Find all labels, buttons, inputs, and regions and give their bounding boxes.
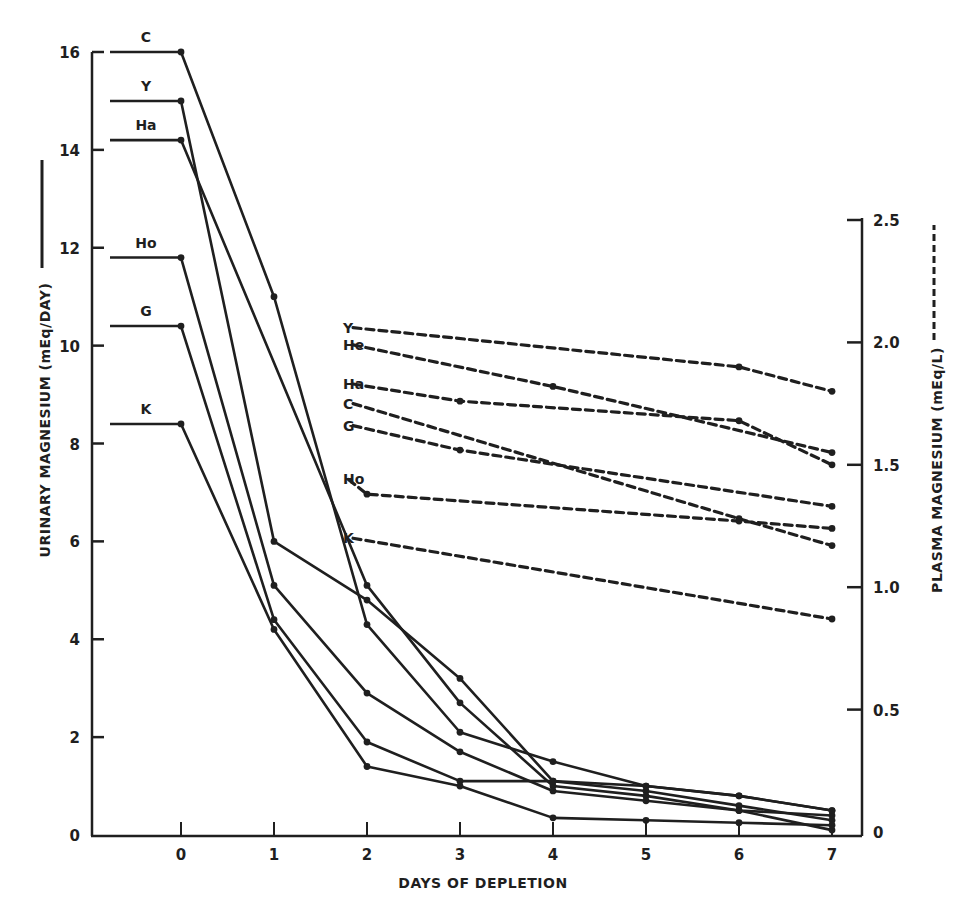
plasma-label-g: G <box>343 418 355 434</box>
urinary-line-g <box>110 326 832 810</box>
data-point <box>457 699 464 706</box>
plasma-label-c: C <box>343 396 353 412</box>
right-y-tick-label: 0.5 <box>873 702 900 720</box>
left-y-tick-label: 2 <box>70 729 80 747</box>
left-y-tick-label: 16 <box>59 44 80 62</box>
data-point <box>829 542 836 549</box>
urinary-line-c <box>110 52 832 811</box>
data-point <box>271 626 278 633</box>
data-point <box>457 447 464 454</box>
data-point <box>364 739 371 746</box>
right-y-tick-label: 0 <box>873 824 883 842</box>
left-y-tick-label: 6 <box>70 533 80 551</box>
data-point <box>271 293 278 300</box>
plasma-magnesium-series <box>348 328 835 623</box>
plasma-line-he <box>353 345 832 453</box>
data-point <box>829 449 836 456</box>
plasma-line-g <box>353 426 832 507</box>
x-tick-label: 0 <box>176 846 186 864</box>
data-point <box>457 729 464 736</box>
x-tick-label: 2 <box>362 846 372 864</box>
data-point <box>178 137 185 144</box>
urinary-label-g: G <box>140 303 152 319</box>
plasma-label-ha: Ha <box>343 376 364 392</box>
x-tick-label: 5 <box>641 846 651 864</box>
data-point <box>550 814 557 821</box>
data-point <box>271 538 278 545</box>
data-point <box>178 254 185 261</box>
data-point <box>736 518 743 525</box>
data-point <box>271 582 278 589</box>
data-point <box>457 783 464 790</box>
data-point <box>364 621 371 628</box>
plasma-label-he: He <box>343 337 364 353</box>
plasma-line-ho <box>348 479 832 528</box>
data-point <box>550 758 557 765</box>
data-point <box>736 417 743 424</box>
data-point <box>178 421 185 428</box>
urinary-label-c: C <box>141 29 151 45</box>
data-point <box>829 807 836 814</box>
data-point <box>643 817 650 824</box>
data-point <box>457 398 464 405</box>
right-y-tick-label: 1.5 <box>873 457 900 475</box>
right-y-tick-label: 2.5 <box>873 212 900 230</box>
urinary-label-k: K <box>141 401 153 417</box>
data-point <box>178 49 185 56</box>
left-y-tick-label: 8 <box>70 436 80 454</box>
x-tick-label: 1 <box>269 846 279 864</box>
data-point <box>736 819 743 826</box>
x-tick-label: 3 <box>455 846 465 864</box>
data-point <box>829 525 836 532</box>
data-point <box>829 616 836 623</box>
data-point <box>364 582 371 589</box>
data-point <box>829 822 836 829</box>
x-tick-label: 7 <box>827 846 837 864</box>
x-tick-label: 4 <box>548 846 558 864</box>
plasma-label-y: Y <box>342 320 354 336</box>
plasma-label-k: K <box>343 530 355 546</box>
data-point <box>178 98 185 105</box>
urinary-label-y: Y <box>140 78 152 94</box>
left-y-tick-label: 12 <box>59 240 80 258</box>
data-point <box>364 597 371 604</box>
data-point <box>550 778 557 785</box>
data-point <box>829 388 836 395</box>
left-y-axis-title: URINARY MAGNESIUM (mEq/DAY) <box>37 283 53 558</box>
plasma-line-k <box>353 538 832 619</box>
right-y-axis-title: PLASMA MAGNESIUM (mEq/L) <box>929 347 945 593</box>
x-axis-title: DAYS OF DEPLETION <box>398 875 567 891</box>
right-y-tick-label: 1.0 <box>873 579 900 597</box>
x-tick-label: 6 <box>734 846 744 864</box>
data-point <box>457 675 464 682</box>
data-point <box>643 783 650 790</box>
data-point <box>550 383 557 390</box>
data-point <box>364 763 371 770</box>
left-y-tick-label: 4 <box>70 631 80 649</box>
plasma-label-ho: Ho <box>343 471 365 487</box>
data-point <box>829 503 836 510</box>
data-point <box>736 363 743 370</box>
left-y-tick-label: 10 <box>59 338 80 356</box>
data-point <box>736 792 743 799</box>
data-point <box>364 491 371 498</box>
left-y-tick-label: 14 <box>59 142 80 160</box>
left-y-tick-label: 0 <box>70 827 80 845</box>
plasma-line-ha <box>353 384 832 465</box>
data-point <box>178 323 185 330</box>
urinary-line-ha <box>110 140 832 830</box>
data-point <box>364 690 371 697</box>
series-labels: CYHaHoGKYHeHaCGHoK <box>135 29 364 546</box>
data-point <box>457 748 464 755</box>
data-point <box>829 461 836 468</box>
data-point <box>643 797 650 804</box>
urinary-label-ho: Ho <box>135 235 157 251</box>
urinary-line-k <box>110 424 832 825</box>
urinary-plasma-magnesium-chart: 024681012141600.51.01.52.02.501234567 CY… <box>0 0 967 909</box>
data-point <box>736 807 743 814</box>
urinary-magnesium-series <box>110 49 835 834</box>
data-point <box>550 788 557 795</box>
right-y-tick-label: 2.0 <box>873 334 900 352</box>
urinary-label-ha: Ha <box>135 117 156 133</box>
